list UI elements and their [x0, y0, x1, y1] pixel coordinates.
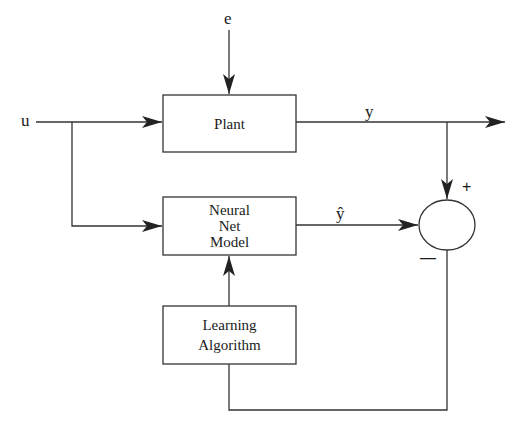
learning-label-line-1: Learning: [202, 315, 256, 335]
y-label: y: [365, 102, 374, 122]
e-label: e: [224, 9, 232, 29]
minus-sign: —: [420, 249, 436, 267]
u-to-neural-net-line: [72, 122, 162, 226]
learning-label-line-2: Algorithm: [198, 335, 261, 355]
neural-net-label-line-1: Neural: [209, 202, 250, 218]
yhat-label: ŷ: [336, 204, 345, 224]
plus-sign: +: [462, 178, 471, 196]
learning-algorithm-label: Learning Algorithm: [163, 306, 296, 364]
neural-net-label-line-3: Model: [210, 234, 249, 250]
plant-label: Plant: [163, 95, 296, 152]
plant-label-line-1: Plant: [214, 116, 245, 132]
summing-junction: [419, 200, 475, 250]
neural-net-model-label: Neural Net Model: [163, 197, 296, 255]
u-label: u: [21, 111, 30, 131]
neural-net-label-line-2: Net: [219, 218, 241, 234]
